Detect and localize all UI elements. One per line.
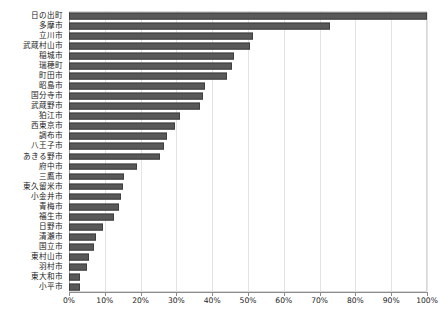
x-tick-50% (248, 292, 249, 296)
horizontal-bar-chart: 日の出町多摩市立川市武蔵村山市稲城市瑞穂町町田市昭島市国分寺市武蔵野市狛江市西東… (0, 0, 447, 317)
x-tick-80% (355, 292, 356, 296)
bar-row (69, 61, 427, 71)
x-tick-label: 80% (347, 297, 364, 305)
bar (69, 33, 253, 40)
x-tick-label: 20% (132, 297, 149, 305)
bar-row (69, 81, 427, 91)
x-tick-label: 60% (275, 297, 292, 305)
category-label: 清瀬市 (0, 233, 63, 241)
bar (69, 274, 80, 281)
category-label: 西東京市 (0, 122, 63, 130)
bar (69, 123, 175, 130)
bar (69, 153, 160, 160)
category-label: 府中市 (0, 163, 63, 171)
category-labels: 日の出町多摩市立川市武蔵村山市稲城市瑞穂町町田市昭島市国分寺市武蔵野市狛江市西東… (0, 11, 67, 292)
bar-row (69, 41, 427, 51)
bar (69, 193, 121, 200)
bar (69, 73, 227, 80)
bar-row (69, 11, 427, 21)
category-label: 多摩市 (0, 22, 63, 30)
bar (69, 183, 123, 190)
bar (69, 53, 234, 60)
bar-row (69, 232, 427, 242)
category-label: 東大和市 (0, 273, 63, 281)
x-tick-40% (212, 292, 213, 296)
bar-row (69, 212, 427, 222)
bar (69, 103, 200, 110)
x-tick-100% (427, 292, 428, 296)
gridline-100% (427, 12, 428, 291)
x-tick-label: 0% (63, 297, 75, 305)
bar (69, 133, 167, 140)
bar (69, 13, 427, 20)
x-tick-60% (284, 292, 285, 296)
bar-row (69, 21, 427, 31)
bar-row (69, 31, 427, 41)
x-tick-label: 30% (168, 297, 185, 305)
category-label: 青梅市 (0, 203, 63, 211)
category-label: 瑞穂町 (0, 62, 63, 70)
x-tick-10% (105, 292, 106, 296)
bar-row (69, 262, 427, 272)
category-label: 町田市 (0, 72, 63, 80)
bar-row (69, 182, 427, 192)
bar-row (69, 252, 427, 262)
x-tick-label: 50% (240, 297, 257, 305)
x-tick-label: 100% (416, 297, 438, 305)
category-label: 東久留米市 (0, 183, 63, 191)
bar (69, 233, 96, 240)
bar-row (69, 282, 427, 292)
bar (69, 83, 205, 90)
category-label: 日の出町 (0, 12, 63, 20)
bar-row (69, 131, 427, 141)
bar-row (69, 71, 427, 81)
bar-row (69, 121, 427, 131)
bar-row (69, 51, 427, 61)
bar-row (69, 162, 427, 172)
bar-row (69, 192, 427, 202)
category-label: 武蔵野市 (0, 102, 63, 110)
bar (69, 163, 137, 170)
bar (69, 284, 80, 291)
bar (69, 223, 103, 230)
bar-row (69, 152, 427, 162)
x-tick-label: 10% (96, 297, 113, 305)
bar (69, 23, 330, 30)
category-label: 東村山市 (0, 253, 63, 261)
bar (69, 143, 164, 150)
category-label: 羽村市 (0, 263, 63, 271)
bar-row (69, 91, 427, 101)
bar (69, 243, 94, 250)
bar-row (69, 202, 427, 212)
bar-row (69, 141, 427, 151)
category-label: 武蔵村山市 (0, 42, 63, 50)
bar-row (69, 172, 427, 182)
category-label: 稲城市 (0, 52, 63, 60)
category-label: 立川市 (0, 32, 63, 40)
category-label: 小金井市 (0, 193, 63, 201)
bar-row (69, 222, 427, 232)
x-tick-30% (176, 292, 177, 296)
bar-row (69, 111, 427, 121)
category-label: 八王子市 (0, 142, 63, 150)
category-label: 三鷹市 (0, 173, 63, 181)
x-tick-label: 70% (311, 297, 328, 305)
bar-row (69, 101, 427, 111)
category-label: 調布市 (0, 132, 63, 140)
bar (69, 113, 180, 120)
category-label: 国分寺市 (0, 92, 63, 100)
bar (69, 63, 232, 70)
bar (69, 43, 250, 50)
category-label: 日野市 (0, 223, 63, 231)
category-label: あきる野市 (0, 153, 63, 161)
bar (69, 213, 114, 220)
x-tick-0% (69, 292, 70, 296)
bar (69, 203, 119, 210)
bar (69, 173, 124, 180)
bars-layer (69, 11, 427, 292)
category-label: 国立市 (0, 243, 63, 251)
category-label: 昭島市 (0, 82, 63, 90)
bar (69, 263, 87, 270)
bar (69, 253, 89, 260)
category-label: 小平市 (0, 283, 63, 291)
